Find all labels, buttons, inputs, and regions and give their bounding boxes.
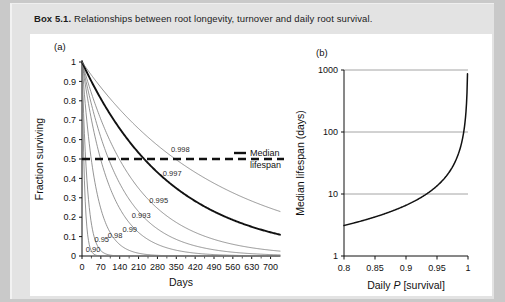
figure-caption: Box 5.1. Relationships between root long…: [34, 13, 484, 24]
panel-a: (a)00.10.20.30.40.50.60.70.80.9107014021…: [30, 34, 288, 296]
panel-b-y-axis-label: Median lifespan (days): [294, 110, 306, 216]
panel-b-x-tick-label: 0.85: [366, 263, 384, 273]
panel-a-curve-label-0.98: 0.98: [108, 231, 123, 240]
panel-a-y-tick-label: 0.1: [63, 232, 76, 242]
caption-box-label: Box 5.1.: [34, 13, 71, 24]
panel-b-x-tick-label: 1: [465, 263, 470, 273]
panel-a-y-tick-label: 0.7: [63, 115, 76, 125]
panel-a-x-tick-label: 560: [225, 262, 240, 272]
figure-page: Box 5.1. Relationships between root long…: [10, 3, 494, 299]
panel-a-y-tick-label: 0.6: [63, 135, 76, 145]
panel-a-x-tick-label: 210: [131, 262, 146, 272]
panel-a-curve-label-0.997: 0.997: [163, 169, 182, 178]
panel-a-y-tick-label: 0.3: [63, 193, 76, 203]
panel-a-x-tick-label: 280: [150, 262, 165, 272]
panel-b-x-tick-label: 0.8: [338, 263, 351, 273]
panel-a-x-axis-label: Days: [169, 276, 193, 288]
panel-a-x-tick-label: 0: [79, 262, 84, 272]
caption-text: Relationships between root longevity, tu…: [74, 13, 372, 24]
panel-a-y-tick-label: 1: [71, 57, 76, 67]
panel-b-y-tick-label: 10: [328, 189, 338, 199]
panel-a-curve-label-0.998: 0.998: [171, 145, 190, 154]
panel-a-x-tick-label: 350: [169, 262, 184, 272]
panel-a-curve-label-0.99: 0.99: [122, 225, 137, 234]
panel-a-curve-0.998: [82, 62, 280, 211]
panel-a-y-tick-label: 0.5: [63, 154, 76, 164]
panel-a-x-tick-label: 490: [206, 262, 221, 272]
plot-area: (a)00.10.20.30.40.50.60.70.80.9107014021…: [30, 34, 492, 296]
panel-b: (b)11010010000.80.850.90.951Daily P [sur…: [288, 34, 492, 296]
panel-a-annotation-line2: lifespan: [250, 160, 281, 170]
panel-b-curve: [344, 74, 468, 226]
panel-a-y-tick-label: 0.2: [63, 212, 76, 222]
panel-b-y-tick-label: 100: [323, 127, 338, 137]
panel-a-y-tick-label: 0.8: [63, 96, 76, 106]
panel-b-x-tick-label: 0.9: [400, 263, 413, 273]
panel-a-annotation-line1: Median: [250, 148, 280, 158]
panel-a-svg: (a)00.10.20.30.40.50.60.70.80.9107014021…: [30, 34, 288, 296]
panel-a-curve-label-0.993: 0.993: [132, 211, 151, 220]
panel-a-tag: (a): [54, 41, 66, 52]
panel-b-tag: (b): [316, 47, 328, 58]
panel-b-svg: (b)11010010000.80.850.90.951Daily P [sur…: [288, 34, 492, 296]
figure-root: Box 5.1. Relationships between root long…: [0, 0, 505, 302]
panel-a-x-tick-label: 140: [112, 262, 127, 272]
panel-a-curve-label-0.95: 0.95: [94, 235, 109, 244]
panel-b-y-tick-label: 1: [333, 251, 338, 261]
panel-a-y-tick-label: 0: [71, 251, 76, 261]
panel-b-x-tick-label: 0.95: [428, 263, 446, 273]
panel-a-y-axis-label: Fraction surviving: [33, 118, 45, 200]
panel-a-y-tick-label: 0.9: [63, 77, 76, 87]
panel-a-x-tick-label: 420: [188, 262, 203, 272]
panel-a-x-tick-label: 700: [263, 262, 278, 272]
panel-a-curve-label-0.90: 0.90: [86, 245, 101, 254]
panel-a-x-tick-label: 630: [244, 262, 259, 272]
panel-a-x-tick-label: 70: [96, 262, 106, 272]
panel-b-x-axis-label: Daily P [survival]: [367, 279, 445, 291]
panel-a-curve-label-0.995: 0.995: [149, 196, 168, 205]
panel-a-y-tick-label: 0.4: [63, 174, 76, 184]
panel-b-y-tick-label: 1000: [318, 65, 338, 75]
